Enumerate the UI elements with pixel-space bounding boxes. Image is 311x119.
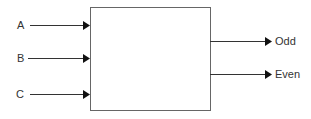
output-label-odd: Odd — [275, 35, 296, 47]
arrowhead-icon — [83, 21, 90, 30]
input-label-a: A — [17, 19, 24, 31]
input-arrow-b — [28, 54, 90, 63]
output-label-even: Even — [275, 68, 300, 80]
arrowhead-icon — [83, 90, 90, 99]
diagram-canvas — [0, 0, 311, 119]
process-block — [91, 8, 211, 111]
output-arrow-odd — [210, 37, 272, 46]
output-arrow-even — [210, 70, 272, 79]
arrowhead-icon — [265, 37, 272, 46]
input-label-b: B — [17, 52, 24, 64]
input-label-c: C — [16, 88, 24, 100]
input-arrow-c — [30, 90, 90, 99]
input-arrow-a — [30, 21, 90, 30]
arrowhead-icon — [83, 54, 90, 63]
arrowhead-icon — [265, 70, 272, 79]
